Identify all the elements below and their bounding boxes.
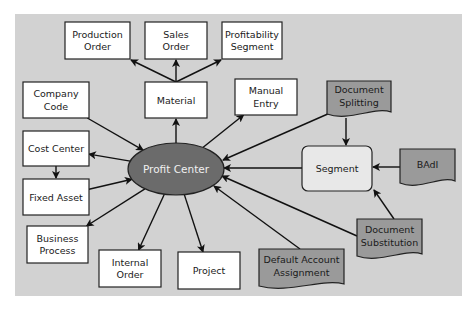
node-sales-order: SalesOrder [145,22,207,59]
node-label: BAdI [417,159,439,170]
edge-profit-center-to-project [184,195,203,252]
node-label: Fixed Asset [29,192,83,203]
edge-fixed-asset-to-profit-center [89,179,132,189]
node-manual-entry: ManualEntry [235,79,297,115]
edge-company-code-to-profit-center [87,118,143,150]
node-label: Default Account [263,254,339,265]
node-label: Process [39,245,75,256]
node-project: Project [178,252,240,289]
edge-default-account-assignment-to-profit-center [214,186,300,249]
nodes: ProductionOrderSalesOrderProfitabilitySe… [23,22,455,289]
node-profit-center: Profit Center [128,143,224,195]
edge-material-to-production-order [131,60,176,82]
node-label: Material [157,95,196,106]
node-label: Order [117,269,144,280]
node-label: Internal [112,257,149,268]
node-label: Cost Center [28,143,84,154]
node-label: Assignment [274,267,330,278]
node-profitability-segment: ProfitabilitySegment [222,22,282,59]
node-label: Order [163,41,190,52]
node-label: Segment [316,163,359,174]
node-cost-center: Cost Center [23,131,89,166]
node-company-code: CompanyCode [23,82,89,118]
node-label: Sales [163,29,188,40]
node-label: Business [37,233,79,244]
node-default-account-assignment: Default AccountAssignment [259,249,344,288]
node-label: Document [334,84,383,95]
edge-profit-center-to-cost-center [89,154,130,161]
node-label: Code [44,101,68,112]
node-label: Profitability [225,29,279,40]
node-label: Segment [231,41,274,52]
node-segment: Segment [302,146,372,191]
edge-profit-center-to-business-process [87,189,145,226]
edge-material-to-profitability-segment [176,60,221,82]
profit-center-diagram: ProductionOrderSalesOrderProfitabilitySe… [0,0,475,309]
node-label: Order [84,41,111,52]
node-label: Splitting [339,97,378,108]
profit-center-label: Profit Center [143,163,210,175]
node-label: Entry [253,98,279,109]
node-business-process: BusinessProcess [27,226,88,263]
node-production-order: ProductionOrder [65,22,130,59]
node-label: Document [365,224,414,235]
node-fixed-asset: Fixed Asset [23,179,89,215]
node-label: Manual [249,85,284,96]
node-document-splitting: DocumentSplitting [327,81,391,116]
edge-document-substitution-to-segment [374,190,394,219]
node-label: Company [33,88,79,99]
node-label: Project [193,265,226,276]
node-document-substitution: DocumentSubstitution [357,219,422,258]
node-badi: BAdI [400,149,455,185]
node-label: Substitution [361,237,418,248]
edge-profit-center-to-manual-entry [203,115,244,147]
edge-profit-center-to-internal-order [139,194,165,250]
node-internal-order: InternalOrder [99,250,161,287]
node-material: Material [145,82,207,118]
node-label: Production [72,29,123,40]
